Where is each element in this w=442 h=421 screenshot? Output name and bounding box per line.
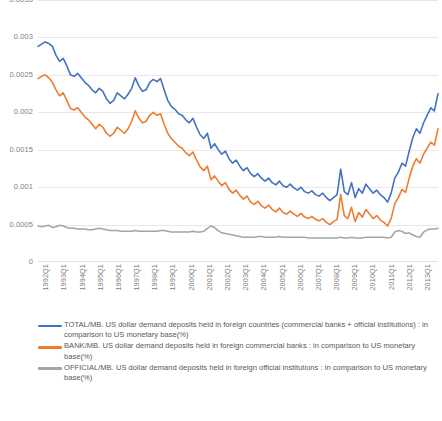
x-axis-tick-label: 2001Q1: [205, 264, 214, 291]
legend-color-swatch: [38, 346, 62, 349]
x-axis-tick-label: 1994Q1: [78, 264, 87, 291]
y-axis-tick-label: 0.0005: [9, 221, 33, 229]
y-axis-tick-label: 0.003: [14, 33, 33, 41]
legend-item[interactable]: BANK/MB. US dollar demand deposits held …: [38, 341, 438, 361]
x-axis-tick-label: 2008Q1: [332, 264, 341, 291]
x-axis: 1992Q11993Q11994Q11995Q11996Q11997Q11998…: [38, 262, 438, 314]
x-axis-tick-label: 2003Q1: [241, 264, 250, 291]
series-line-total-mb: [38, 42, 438, 202]
x-axis-tick-label: 1992Q1: [41, 264, 50, 291]
x-axis-tick-label: 2013Q1: [423, 264, 432, 291]
x-axis-tick-label: 2011Q1: [387, 264, 396, 290]
x-axis-tick-label: 1996Q1: [114, 264, 123, 291]
line-chart: 0.00350.0030.00250.0020.00150.0010.00050…: [0, 0, 442, 421]
chart-legend: TOTAL/MB. US dollar demand deposits held…: [38, 320, 438, 384]
legend-item[interactable]: OFFICIAL/MB. US dollar demand deposits h…: [38, 363, 438, 383]
x-axis-tick-label: 2002Q1: [223, 264, 232, 291]
y-axis-tick-label: 0.002: [14, 108, 33, 116]
x-axis-tick-label: 1995Q1: [96, 264, 105, 291]
series-line-bank-mb: [38, 75, 438, 226]
x-axis-tick-label: 1993Q1: [59, 264, 68, 291]
gridlines-and-series: [38, 0, 438, 262]
x-axis-tick-label: 1999Q1: [168, 264, 177, 291]
legend-color-swatch: [38, 367, 62, 370]
x-axis-tick-label: 1997Q1: [132, 264, 141, 291]
legend-item-label: BANK/MB. US dollar demand deposits held …: [64, 341, 438, 361]
x-axis-tick-label: 2006Q1: [296, 264, 305, 291]
y-axis-tick-label: 0.0025: [9, 71, 33, 79]
series-lines: [38, 0, 438, 262]
x-axis-tick-label: 2004Q1: [259, 264, 268, 291]
y-axis-tick-label: 0.001: [14, 183, 33, 191]
legend-item[interactable]: TOTAL/MB. US dollar demand deposits held…: [38, 320, 438, 340]
x-axis-tick-label: 2010Q1: [368, 264, 377, 291]
y-axis: 0.00350.0030.00250.0020.00150.0010.00050: [0, 0, 36, 262]
legend-item-label: TOTAL/MB. US dollar demand deposits held…: [64, 320, 438, 340]
x-axis-tick-label: 2000Q1: [187, 264, 196, 291]
y-axis-tick-label: 0: [29, 258, 33, 266]
x-axis-tick-label: 2012Q1: [405, 264, 414, 291]
legend-color-swatch: [38, 325, 62, 328]
plot-area: 0.00350.0030.00250.0020.00150.0010.00050: [0, 0, 442, 262]
y-axis-tick-label: 0.0035: [9, 0, 33, 4]
x-axis-tick-label: 1998Q1: [150, 264, 159, 291]
x-axis-tick-label: 2007Q1: [314, 264, 323, 291]
legend-item-label: OFFICIAL/MB. US dollar demand deposits h…: [64, 363, 438, 383]
x-axis-tick-label: 2005Q1: [278, 264, 287, 291]
series-line-official-mb: [38, 225, 438, 238]
y-axis-tick-label: 0.0015: [9, 146, 33, 154]
x-axis-tick-label: 2009Q1: [350, 264, 359, 291]
